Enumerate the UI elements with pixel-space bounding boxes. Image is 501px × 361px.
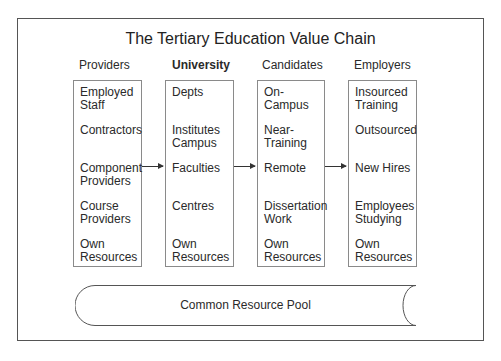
- list-item: Own Resources: [355, 238, 412, 264]
- list-item: Depts: [172, 86, 203, 99]
- list-item: On-Campus: [264, 86, 324, 112]
- list-item: Remote: [264, 162, 306, 175]
- list-item: Course Providers: [80, 200, 131, 226]
- list-item: Dissertation Work: [264, 200, 327, 226]
- list-item: New Hires: [355, 162, 410, 175]
- list-item: Contractors: [80, 124, 142, 137]
- arrow-right-icon: [234, 166, 255, 167]
- employers-box: Insourced Training Outsourced New Hires …: [348, 80, 417, 267]
- providers-box: Employed Staff Contractors Component Pro…: [73, 80, 142, 267]
- common-resource-pool: Common Resource Pool: [75, 285, 416, 326]
- list-item: Institutes Campus: [172, 124, 220, 150]
- arrow-right-icon: [142, 166, 163, 167]
- list-item: Own Resources: [172, 238, 229, 264]
- list-item: Own Resources: [264, 238, 321, 264]
- column-header-university: University: [172, 58, 230, 72]
- list-item: Faculties: [172, 162, 220, 175]
- arrow-right-icon: [325, 166, 346, 167]
- list-item: Outsourced: [355, 124, 417, 137]
- pool-label: Common Resource Pool: [75, 298, 416, 312]
- list-item: Near- Training: [264, 124, 307, 150]
- candidates-box: On-Campus Near- Training Remote Disserta…: [257, 80, 325, 267]
- university-box: Depts Institutes Campus Faculties Centre…: [165, 80, 234, 267]
- column-header-providers: Providers: [79, 58, 130, 72]
- list-item: Employed Staff: [80, 86, 133, 112]
- list-item: Employees Studying: [355, 200, 414, 226]
- column-header-candidates: Candidates: [262, 58, 323, 72]
- list-item: Centres: [172, 200, 214, 213]
- diagram-title: The Tertiary Education Value Chain: [0, 30, 501, 48]
- list-item: Own Resources: [80, 238, 137, 264]
- list-item: Insourced Training: [355, 86, 408, 112]
- list-item: Component Providers: [80, 162, 142, 188]
- column-header-employers: Employers: [354, 58, 411, 72]
